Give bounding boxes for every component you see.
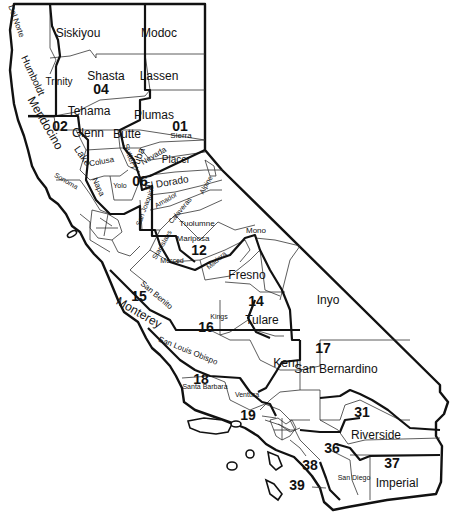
district-number-02: 02	[52, 118, 68, 134]
county-label-san-bernardino: San Bernardino	[294, 362, 378, 376]
county-label-glenn: Glenn	[72, 126, 104, 140]
county-label-modoc: Modoc	[141, 26, 177, 40]
county-label-tulare: Tulare	[245, 313, 279, 327]
district-number-04: 04	[93, 81, 109, 97]
county-label-sonoma: Sonoma	[53, 171, 79, 190]
county-label-fresno: Fresno	[228, 268, 266, 282]
district-number-01: 01	[172, 118, 188, 134]
county-label-mono: Mono	[246, 226, 267, 235]
leader-39	[312, 487, 326, 488]
district-number-16: 16	[198, 319, 214, 335]
county-label-butte: Butte	[113, 127, 141, 141]
district-number-15: 15	[131, 288, 147, 304]
county-label-riverside: Riverside	[351, 428, 401, 442]
leader-19	[262, 416, 276, 418]
district-number-12: 12	[191, 242, 207, 258]
county-label-yolo: Yolo	[113, 182, 126, 189]
county-label-lassen: Lassen	[140, 69, 179, 83]
county-label-colusa: Colusa	[89, 155, 116, 168]
county-label-tuolumne: Tuolumne	[179, 219, 215, 228]
county-label-stanislaus: Stanislaus	[151, 229, 173, 261]
county-label-trinity: Trinity	[46, 76, 73, 87]
district-number-37: 37	[384, 455, 400, 471]
county-label-ventura: Ventura	[235, 391, 259, 398]
district-number-39: 39	[289, 477, 305, 493]
district-number-36: 36	[324, 440, 340, 456]
district-number-31: 31	[354, 404, 370, 420]
district-number-38: 38	[302, 457, 318, 473]
county-label-madera: Madera	[205, 250, 228, 271]
county-label-tehama: Tehama	[68, 104, 111, 118]
county-label-inyo: Inyo	[317, 293, 340, 307]
county-label-merced: Merced	[160, 257, 183, 264]
county-label-plumas: Plumas	[134, 108, 174, 122]
district-number-19: 19	[240, 407, 256, 423]
district-number-06: 06	[132, 173, 148, 189]
county-label-placer: Placer	[162, 154, 191, 165]
map-canvas: Del NorteSiskiyouModocHumboldtTrinitySha…	[0, 0, 468, 520]
county-label-imperial: Imperial	[376, 476, 419, 490]
county-label-alpine: Alpine	[198, 174, 215, 195]
county-label-humboldt: Humboldt	[19, 54, 47, 98]
county-label-siskiyou: Siskiyou	[56, 26, 101, 40]
district-number-17: 17	[315, 340, 331, 356]
california-district-map: Del NorteSiskiyouModocHumboldtTrinitySha…	[0, 0, 468, 520]
district-number-14: 14	[248, 293, 264, 309]
county-label-san-diego: San Diego	[338, 474, 371, 482]
district-number-18: 18	[193, 371, 209, 387]
